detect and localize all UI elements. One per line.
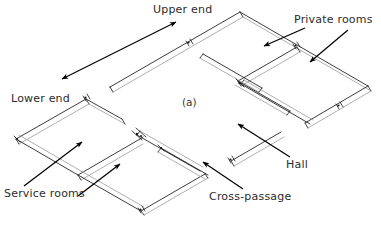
- wall-group-outer-envelope: [110, 12, 371, 128]
- label-private-rooms: Private rooms: [294, 13, 373, 26]
- wall-private-cross: [238, 47, 300, 86]
- leader-private-rooms-2: [310, 30, 348, 62]
- wall-service-upper-right: [86, 99, 125, 124]
- wall-group-hall: [228, 132, 284, 166]
- label-lower-end: Lower end: [11, 92, 70, 105]
- wall-service2-bottom-right: [141, 174, 208, 215]
- leader-private-rooms-1: [264, 28, 305, 46]
- wall-junction-service: [132, 128, 146, 140]
- label-service-rooms: Service rooms: [4, 187, 85, 200]
- wall-service2-bottom-left: [78, 171, 144, 211]
- wall-service2-right: [137, 131, 203, 171]
- wall-service2-top: [78, 139, 143, 180]
- isometric-floor-plan-drawing: Upper end Private rooms Lower end Hall C…: [0, 0, 381, 229]
- label-cross-passage: Cross-passage: [209, 190, 291, 203]
- leader-cross-passage: [203, 162, 243, 189]
- leader-upper-end: [62, 22, 176, 79]
- wall-group-private-rooms: [200, 42, 313, 124]
- label-hall: Hall: [286, 158, 308, 171]
- figure-root: Upper end Private rooms Lower end Hall C…: [0, 0, 381, 229]
- label-upper-end: Upper end: [153, 3, 212, 16]
- wall-private-partition: [241, 80, 313, 124]
- wall-service-divider: [16, 135, 81, 175]
- wall-upper-left-long: [110, 12, 243, 92]
- figure-caption: (a): [182, 96, 197, 108]
- wall-service-top: [16, 99, 89, 144]
- wall-service2-inner: [158, 148, 208, 179]
